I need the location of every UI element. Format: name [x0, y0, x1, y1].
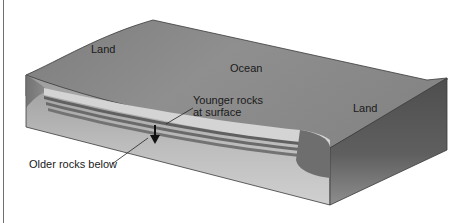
- label-land-left: Land: [91, 43, 115, 55]
- label-land-right: Land: [353, 102, 377, 114]
- label-ocean: Ocean: [230, 62, 262, 74]
- label-older-rocks: Older rocks below: [29, 158, 117, 170]
- label-younger-rocks-line2: at surface: [193, 106, 241, 118]
- label-younger-rocks-line1: Younger rocks: [193, 94, 263, 106]
